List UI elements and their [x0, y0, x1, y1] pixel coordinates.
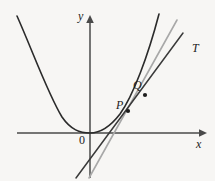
x-axis-label: x: [196, 138, 201, 150]
parabola-tangent-figure: y x 0 P Q T: [0, 0, 215, 181]
point-p-label: P: [116, 99, 123, 111]
x-axis-arrowhead: [199, 129, 207, 137]
y-axis: [86, 15, 94, 178]
y-axis-label: y: [78, 10, 83, 22]
figure-canvas: [0, 0, 215, 181]
point-p-marker: [126, 109, 130, 113]
origin-label: 0: [79, 134, 85, 146]
tangent-line-t: [76, 33, 183, 178]
y-axis-arrowhead: [86, 15, 94, 23]
point-q-marker: [143, 93, 147, 97]
secant-line-pq: [89, 20, 177, 178]
point-q-label: Q: [133, 79, 142, 91]
tangent-line-label: T: [192, 42, 199, 54]
parabola-curve: [17, 14, 159, 133]
